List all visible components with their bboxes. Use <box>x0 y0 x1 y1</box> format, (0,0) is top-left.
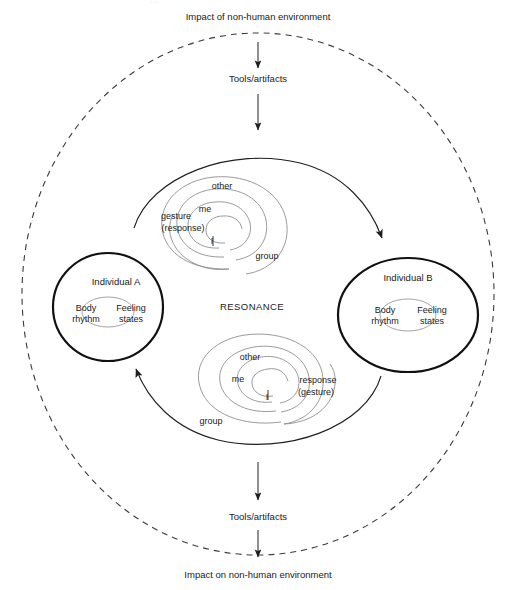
top-tools-label: Tools/artifacts <box>229 73 287 84</box>
individual-a-feeling-line2: states <box>119 314 144 324</box>
interaction-arrow-b-to-a <box>136 369 381 444</box>
spiral-bottom-label-action-line2: (gesture) <box>298 387 334 397</box>
individual-a-circle <box>53 253 163 361</box>
individual-b-title: Individual B <box>383 272 432 283</box>
spiral-top-label-i: I <box>211 236 214 246</box>
resonance-label: RESONANCE <box>220 301 284 312</box>
spiral-bottom-label-other: other <box>240 352 261 362</box>
individual-a-title: Individual A <box>92 276 141 287</box>
spiral-bottom-label-i: I <box>266 392 269 402</box>
spiral-top-group: other me I group gesture (response) <box>161 177 287 274</box>
spiral-bottom-label-me: me <box>232 374 245 384</box>
top-impact-label: Impact of non-human environment <box>186 11 331 22</box>
individual-b-body-line1: Body <box>375 305 396 315</box>
spiral-top-label-action-line2: (response) <box>161 223 204 233</box>
individual-b-feeling-line1: Feeling <box>417 305 447 315</box>
bottom-impact-label: Impact on non-human environment <box>184 569 332 580</box>
individual-a-group: Individual A Body rhythm Feeling states <box>53 253 163 361</box>
individual-b-inner-ellipse <box>380 299 436 331</box>
diagram-canvas: ... Impact of non-human environment Tool… <box>0 0 507 590</box>
spiral-bottom-group: other me I group response (gesture) <box>198 334 336 426</box>
spiral-top-label-other: other <box>212 181 233 191</box>
individual-a-feeling-line1: Feeling <box>116 303 146 313</box>
spiral-top-label-group: group <box>255 251 278 261</box>
spiral-top-label-me: me <box>199 204 212 214</box>
individual-b-feeling-line2: states <box>420 316 445 326</box>
spiral-bottom-label-action-line1: response <box>299 375 336 385</box>
individual-b-body-line2: rhythm <box>371 316 399 326</box>
individual-b-group: Individual B Body rhythm Feeling states <box>338 258 478 372</box>
spiral-top-label-action-line1: gesture <box>161 211 191 221</box>
spiral-bottom-ring-i <box>252 369 288 397</box>
resonance-diagram: Impact of non-human environment Tools/ar… <box>0 0 507 590</box>
individual-a-body-line2: rhythm <box>72 314 100 324</box>
bottom-tools-label: Tools/artifacts <box>229 511 287 522</box>
spiral-bottom-label-group: group <box>199 416 222 426</box>
individual-a-body-line1: Body <box>76 303 97 313</box>
